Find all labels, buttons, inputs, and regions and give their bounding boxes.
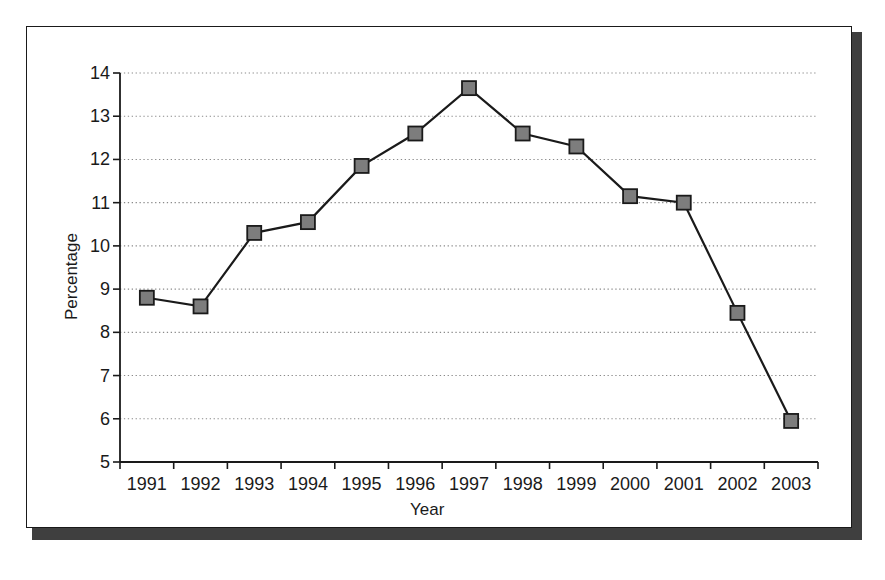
y-axis-tick-label: 8 <box>72 322 110 343</box>
data-point-marker <box>301 215 315 229</box>
y-axis-tick-label: 14 <box>72 63 110 84</box>
x-axis-tick-label: 1999 <box>556 474 596 495</box>
gridlines <box>120 73 818 462</box>
data-point-marker <box>247 226 261 240</box>
data-point-marker <box>516 127 530 141</box>
x-axis-tick-label: 1994 <box>288 474 328 495</box>
y-axis-tick-label: 11 <box>72 192 110 213</box>
x-axis-tick-label: 2003 <box>771 474 811 495</box>
x-axis-tick-label: 1995 <box>342 474 382 495</box>
y-axis-tick-label: 13 <box>72 106 110 127</box>
chart-figure: 5678910111213141991199219931994199519961… <box>0 0 885 580</box>
y-axis-tick-label: 5 <box>72 452 110 473</box>
y-axis <box>113 73 120 462</box>
data-line <box>147 88 791 421</box>
x-axis-tick-label: 1998 <box>503 474 543 495</box>
data-point-marker <box>623 189 637 203</box>
x-axis-tick-label: 2001 <box>664 474 704 495</box>
data-point-marker <box>140 291 154 305</box>
y-axis-tick-label: 7 <box>72 365 110 386</box>
x-axis-tick-label: 2002 <box>717 474 757 495</box>
x-axis-tick-label: 1996 <box>395 474 435 495</box>
data-point-marker <box>462 81 476 95</box>
y-axis-tick-label: 12 <box>72 149 110 170</box>
x-axis-tick-label: 2000 <box>610 474 650 495</box>
data-point-marker <box>194 299 208 313</box>
data-point-marker <box>408 127 422 141</box>
data-point-marker <box>569 139 583 153</box>
x-axis-tick-label: 1992 <box>181 474 221 495</box>
x-axis-tick-label: 1997 <box>449 474 489 495</box>
y-axis-tick-label: 6 <box>72 408 110 429</box>
data-point-marker <box>355 159 369 173</box>
x-axis <box>120 462 818 469</box>
data-point-marker <box>784 414 798 428</box>
x-axis-title: Year <box>410 500 444 520</box>
x-axis-tick-label: 1993 <box>234 474 274 495</box>
y-axis-title: Percentage <box>62 233 82 320</box>
data-point-marker <box>730 306 744 320</box>
x-axis-tick-label: 1991 <box>127 474 167 495</box>
data-point-marker <box>677 196 691 210</box>
